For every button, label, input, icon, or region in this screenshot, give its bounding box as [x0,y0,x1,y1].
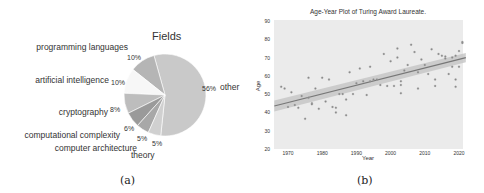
scatter-point [403,69,405,71]
pie-percent-label: 10% [111,79,125,86]
y-tick-label: 40 [264,109,270,115]
x-tick-label: 1970 [282,150,293,156]
scatter-point [407,64,409,66]
pie-percent-label: 5% [137,135,147,142]
scatter-point [287,106,289,108]
pie-percent-label: 56% [202,85,216,92]
y-axis-label: Age [255,80,261,91]
y-tick-label: 50 [264,91,270,97]
scatter-point [427,73,429,75]
pie-label: programming languages [36,42,128,52]
scatter-point [328,79,330,81]
x-axis-label: Year [362,155,374,161]
scatter-title: Age-Year Plot of Turing Award Laureate. [310,8,426,16]
scatter-point [314,88,316,90]
x-tick-label: 2020 [453,150,464,156]
scatter-point [362,80,364,82]
scatter-point [373,79,375,81]
scatter-point [455,55,457,57]
scatter-point [417,71,419,73]
y-tick-label: 30 [264,128,270,134]
caption-b: (b) [357,174,373,187]
pie-label: artificial intelligence [35,75,109,85]
scatter-point [451,57,453,59]
pie-percent-label: 10% [127,54,141,61]
x-tick-label: 1990 [351,150,362,156]
scatter-point [359,68,361,70]
scatter-point [396,47,398,49]
scatter-point [321,77,323,79]
scatter-point [410,44,412,46]
scatter-point [458,50,460,52]
scatter-point [304,118,306,120]
scatter-point [458,66,460,68]
scatter-point [438,53,440,55]
scatter-point [383,53,385,55]
scatter-point [332,106,334,108]
caption-a: (a) [120,174,135,187]
scatter-point [424,64,426,66]
scatter-point [390,60,392,62]
pie-label: computer architecture [55,143,137,153]
scatter-point [396,57,398,59]
scatter-point [355,82,357,84]
y-tick-label: 20 [264,146,270,152]
scatter-point [400,84,402,86]
y-tick-label: 60 [264,73,270,79]
y-tick-label: 70 [264,55,270,61]
scatter-point [461,42,463,44]
pie-slices [124,54,206,136]
scatter-point [280,86,282,88]
scatter-point [338,93,340,95]
scatter-point [455,79,457,81]
scatter-point [420,58,422,60]
pie-percent-label: 8% [110,106,120,113]
scatter-point [451,66,453,68]
scatter-point [400,92,402,94]
scatter-point [376,79,378,81]
scatter-point [308,97,310,99]
scatter-point [431,48,433,50]
scatter-point [366,94,368,96]
pie-chart: Fields other56%programming languages10%a… [25,30,240,187]
scatter-point [297,107,299,109]
pie-percent-label: 5% [152,140,162,147]
pie-label: theory [131,150,155,160]
scatter-point [308,77,310,79]
scatter-point [335,111,337,113]
figure: Fields other56%programming languages10%a… [0,0,484,193]
scatter-point [379,84,381,86]
scatter-point [434,85,436,87]
scatter-point [311,103,313,105]
scatter-point [448,73,450,75]
scatter-point [290,91,292,93]
x-tick-label: 2010 [419,150,430,156]
scatter-point [352,93,354,95]
scatter-point [393,85,395,87]
scatter-point [441,55,443,57]
scatter-point [284,88,286,90]
pie-title: Fields [152,30,182,42]
scatter-point [400,80,402,82]
scatter-point [417,88,419,90]
scatter-point [455,86,457,88]
scatter-point [294,104,296,106]
scatter-point [345,99,347,101]
scatter-point [301,95,303,97]
pie-label: cryptography [59,107,109,117]
scatter-point [369,66,371,68]
scatter-chart: Age-Year Plot of Turing Award Laureate. … [255,8,466,187]
scatter-point [434,79,436,81]
scatter-point [444,58,446,60]
pie-label: other [220,82,240,92]
pie-percent-label: 6% [124,125,134,132]
scatter-point [369,80,371,82]
scatter-point [318,108,320,110]
y-tick-label: 80 [264,36,270,42]
scatter-point [444,56,446,58]
scatter-point [325,100,327,102]
scatter-point [349,71,351,73]
scatter-point [335,107,337,109]
pie-label: computational complexity [25,130,121,140]
x-tick-label: 2000 [385,150,396,156]
